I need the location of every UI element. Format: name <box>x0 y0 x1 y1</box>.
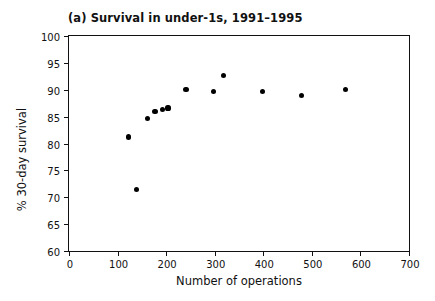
data-point <box>126 134 131 139</box>
y-axis-tick-label: 100 <box>41 32 60 43</box>
chart-title: (a) Survival in under-1s, 1991–1995 <box>68 11 303 25</box>
data-point <box>134 187 139 192</box>
y-axis-tick: 65 <box>64 224 69 225</box>
y-axis-tick: 85 <box>64 117 69 118</box>
y-axis-tick-label: 95 <box>47 58 60 69</box>
y-axis-tick-label: 75 <box>47 166 60 177</box>
x-axis-tick: 200 <box>166 251 167 256</box>
x-axis-tick-label: 600 <box>352 259 371 270</box>
y-axis-tick-label: 85 <box>47 112 60 123</box>
data-point <box>165 105 170 110</box>
x-axis-tick: 300 <box>215 251 216 256</box>
x-axis-tick: 400 <box>263 251 264 256</box>
y-axis-tick: 70 <box>64 197 69 198</box>
data-point <box>145 116 150 121</box>
y-axis-tick-label: 60 <box>47 247 60 258</box>
y-axis-tick-label: 65 <box>47 220 60 231</box>
x-axis-tick-label: 300 <box>206 259 225 270</box>
x-axis-tick: 700 <box>409 251 410 256</box>
y-axis-tick: 90 <box>64 90 69 91</box>
data-point <box>211 89 216 94</box>
x-axis-tick-label: 100 <box>109 259 128 270</box>
plot-area: 6065707580859095100010020030040050060070… <box>68 35 410 252</box>
x-axis-tick: 0 <box>69 251 70 256</box>
data-point <box>260 89 265 94</box>
data-point <box>299 93 304 98</box>
y-axis-label: % 30-day survival <box>14 51 30 268</box>
y-axis-tick: 100 <box>64 36 69 37</box>
data-point <box>343 87 348 92</box>
x-axis-tick: 100 <box>118 251 119 256</box>
x-axis-tick-label: 200 <box>158 259 177 270</box>
x-axis-label: Number of operations <box>68 274 410 288</box>
x-axis-tick-label: 0 <box>67 259 73 270</box>
y-axis-tick-label: 80 <box>47 139 60 150</box>
data-point <box>221 73 226 78</box>
data-point <box>152 109 157 114</box>
x-axis-tick: 600 <box>360 251 361 256</box>
x-axis-tick-label: 500 <box>303 259 322 270</box>
y-axis-tick-label: 70 <box>47 193 60 204</box>
data-point <box>183 87 188 92</box>
x-axis-tick-label: 400 <box>255 259 274 270</box>
x-axis-tick-label: 700 <box>400 259 419 270</box>
y-axis-tick-label: 90 <box>47 85 60 96</box>
y-axis-tick: 75 <box>64 170 69 171</box>
y-axis-tick: 80 <box>64 144 69 145</box>
x-axis-tick: 500 <box>312 251 313 256</box>
data-points-layer <box>69 36 409 251</box>
figure-scatter-survival: (a) Survival in under-1s, 1991–1995 6065… <box>0 0 435 301</box>
y-axis-tick: 95 <box>64 63 69 64</box>
data-point <box>160 107 165 112</box>
